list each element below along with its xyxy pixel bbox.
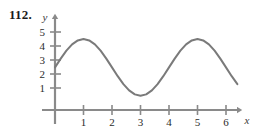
graph-plot: 1 2 3 4 5 6 1 2 3 4 5 y x [0, 0, 264, 132]
y-tick-label-4: 4 [40, 40, 46, 52]
x-tick-label-2: 2 [109, 116, 115, 128]
x-axis-label: x [244, 114, 250, 126]
y-axis-label: y [42, 11, 48, 23]
x-tick-label-6: 6 [223, 116, 229, 128]
y-tick-label-5: 5 [40, 26, 46, 38]
x-tick-label-3: 3 [138, 116, 144, 128]
x-tick-label-1: 1 [81, 116, 87, 128]
x-tick-label-5: 5 [195, 116, 201, 128]
x-tick-label-4: 4 [166, 116, 172, 128]
figure-container: 112. [0, 0, 264, 132]
y-tick-label-2: 2 [40, 68, 46, 80]
y-tick-label-1: 1 [40, 82, 46, 94]
y-tick-label-3: 3 [40, 54, 46, 66]
sine-curve [55, 39, 237, 96]
